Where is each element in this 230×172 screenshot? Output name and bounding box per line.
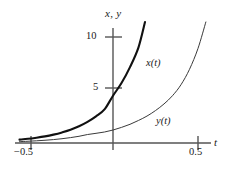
ytick-label-5: 5 [93, 82, 98, 93]
curve-x-of-t [20, 22, 146, 140]
curve-label-y-of-t: y(t) [156, 116, 171, 127]
ytick-label-10: 10 [86, 31, 97, 42]
x-axis-title: t [214, 137, 217, 148]
y-axis-title: x, y [105, 8, 121, 19]
xtick-label-negative-0-5: −0.5 [14, 147, 33, 158]
curve-label-x-of-t: x(t) [146, 58, 161, 69]
figure-exponential-plot: x, y t 10 5 −0.5 0.5 x(t) y(t) [0, 0, 230, 172]
xtick-label-0-5: 0.5 [189, 147, 202, 158]
